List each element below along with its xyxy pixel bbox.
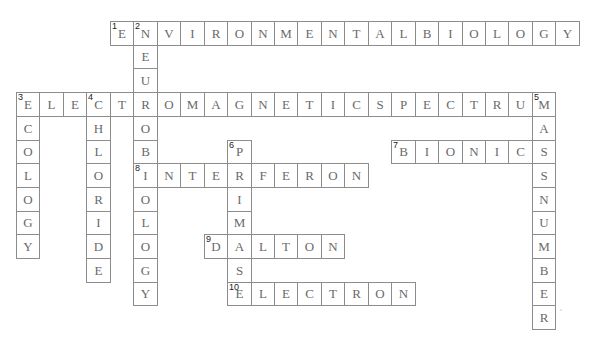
crossword-cell[interactable]: O — [16, 187, 40, 212]
crossword-cell[interactable]: I — [438, 21, 463, 46]
crossword-cell[interactable]: R — [297, 163, 322, 188]
crossword-cell[interactable]: L — [251, 234, 275, 259]
crossword-cell[interactable]: E — [532, 282, 556, 306]
crossword-cell[interactable]: C — [16, 116, 40, 141]
crossword-cell[interactable]: 7B — [391, 140, 416, 164]
crossword-cell[interactable]: O — [462, 21, 486, 46]
crossword-cell[interactable]: 3E — [16, 92, 40, 117]
crossword-cell[interactable]: G — [227, 92, 252, 117]
crossword-cell[interactable]: L — [133, 211, 158, 235]
crossword-cell[interactable]: A — [204, 92, 228, 117]
crossword-cell[interactable]: R — [86, 187, 111, 212]
crossword-cell[interactable]: E — [274, 163, 298, 188]
crossword-cell[interactable]: R — [485, 92, 509, 117]
crossword-cell[interactable]: I — [180, 21, 205, 46]
crossword-cell[interactable]: B — [415, 21, 439, 46]
crossword-cell[interactable]: E — [133, 45, 158, 69]
crossword-cell[interactable]: G — [16, 211, 40, 235]
crossword-cell[interactable]: H — [86, 116, 111, 141]
crossword-cell[interactable]: L — [391, 21, 416, 46]
crossword-cell[interactable]: O — [438, 140, 463, 164]
crossword-cell[interactable]: N — [344, 163, 369, 188]
crossword-cell[interactable]: I — [415, 140, 439, 164]
crossword-cell[interactable]: O — [321, 163, 345, 188]
crossword-cell[interactable]: Y — [133, 282, 158, 306]
crossword-cell[interactable]: E — [415, 92, 439, 117]
crossword-cell[interactable]: Y — [555, 21, 580, 46]
crossword-cell[interactable]: O — [508, 21, 533, 46]
crossword-cell[interactable]: N — [251, 21, 275, 46]
crossword-cell[interactable]: O — [86, 163, 111, 188]
crossword-cell[interactable]: M — [227, 211, 252, 235]
crossword-cell[interactable]: R — [204, 21, 228, 46]
crossword-cell[interactable]: T — [321, 282, 345, 306]
crossword-cell[interactable]: O — [297, 234, 322, 259]
crossword-cell[interactable]: C — [344, 92, 369, 117]
crossword-cell[interactable]: I — [321, 92, 345, 117]
crossword-cell[interactable]: Y — [16, 234, 40, 259]
crossword-cell[interactable]: T — [462, 92, 486, 117]
crossword-cell[interactable]: U — [508, 92, 533, 117]
crossword-cell[interactable]: D — [86, 234, 111, 259]
crossword-cell[interactable]: T — [344, 21, 369, 46]
crossword-cell[interactable]: S — [532, 140, 556, 164]
crossword-cell[interactable]: F — [251, 163, 275, 188]
crossword-cell[interactable]: L — [251, 282, 275, 306]
crossword-cell[interactable]: O — [133, 187, 158, 212]
crossword-cell[interactable]: B — [532, 258, 556, 283]
crossword-cell[interactable]: 1E — [110, 21, 134, 46]
crossword-cell[interactable]: O — [133, 116, 158, 141]
crossword-cell[interactable]: R — [532, 305, 556, 330]
crossword-cell[interactable]: T — [297, 92, 322, 117]
crossword-cell[interactable]: T — [274, 234, 298, 259]
crossword-cell[interactable]: S — [227, 258, 252, 283]
crossword-cell[interactable]: S — [368, 92, 392, 117]
crossword-cell[interactable]: E — [274, 92, 298, 117]
crossword-cell[interactable]: L — [485, 21, 509, 46]
crossword-cell[interactable]: G — [133, 258, 158, 283]
crossword-cell[interactable]: L — [39, 92, 64, 117]
crossword-cell[interactable]: P — [391, 92, 416, 117]
crossword-cell[interactable]: O — [227, 21, 252, 46]
crossword-cell[interactable]: 10E — [227, 282, 252, 306]
crossword-cell[interactable]: I — [485, 140, 509, 164]
crossword-cell[interactable]: N — [321, 234, 345, 259]
crossword-cell[interactable]: E — [274, 282, 298, 306]
crossword-cell[interactable]: G — [532, 21, 556, 46]
crossword-cell[interactable]: 2N — [133, 21, 158, 46]
crossword-cell[interactable]: R — [344, 282, 369, 306]
crossword-cell[interactable]: 4C — [86, 92, 111, 117]
crossword-cell[interactable]: C — [438, 92, 463, 117]
crossword-cell[interactable]: S — [532, 163, 556, 188]
crossword-cell[interactable]: A — [227, 234, 252, 259]
crossword-cell[interactable]: M — [274, 21, 298, 46]
crossword-cell[interactable]: E — [297, 21, 322, 46]
crossword-cell[interactable]: O — [157, 92, 181, 117]
crossword-cell[interactable]: M — [180, 92, 205, 117]
crossword-cell[interactable]: T — [180, 163, 205, 188]
crossword-cell[interactable]: O — [133, 234, 158, 259]
crossword-cell[interactable]: U — [532, 211, 556, 235]
crossword-cell[interactable]: E — [63, 92, 87, 117]
crossword-cell[interactable]: N — [391, 282, 416, 306]
crossword-cell[interactable]: A — [368, 21, 392, 46]
crossword-cell[interactable]: B — [133, 140, 158, 164]
crossword-cell[interactable]: 6P — [227, 140, 252, 164]
crossword-cell[interactable]: L — [86, 140, 111, 164]
crossword-cell[interactable]: R — [227, 163, 252, 188]
crossword-cell[interactable]: C — [297, 282, 322, 306]
crossword-cell[interactable]: M — [532, 234, 556, 259]
crossword-cell[interactable]: N — [251, 92, 275, 117]
crossword-cell[interactable]: C — [508, 140, 533, 164]
crossword-cell[interactable]: E — [86, 258, 111, 283]
crossword-cell[interactable]: V — [157, 21, 181, 46]
crossword-cell[interactable]: N — [157, 163, 181, 188]
crossword-cell[interactable]: N — [321, 21, 345, 46]
crossword-cell[interactable]: T — [110, 92, 134, 117]
crossword-cell[interactable]: A — [532, 116, 556, 141]
crossword-cell[interactable]: 5M — [532, 92, 556, 117]
crossword-cell[interactable]: N — [462, 140, 486, 164]
crossword-cell[interactable]: 8I — [133, 163, 158, 188]
crossword-cell[interactable]: E — [204, 163, 228, 188]
crossword-cell[interactable]: R — [133, 92, 158, 117]
